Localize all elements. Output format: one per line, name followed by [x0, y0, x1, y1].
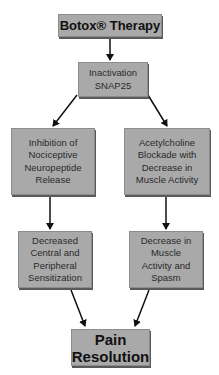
node-label: Botox® Therapy — [60, 18, 161, 33]
node-line: Inactivation — [89, 67, 137, 80]
node-acetylcholine-blockade: Acetylcholine Blockade with Decrease in … — [124, 128, 210, 195]
node-line: Nociceptive — [28, 149, 77, 162]
node-botox-therapy: Botox® Therapy — [58, 14, 162, 37]
node-line: Muscle Activity — [136, 174, 198, 187]
node-inhibition-neuropeptide: Inhibition of Nociceptive Neuropeptide R… — [11, 128, 95, 195]
node-line: Neuropeptide — [24, 162, 81, 175]
arrow-spasm-to-pain — [135, 290, 149, 326]
node-line: Decreased — [32, 235, 78, 248]
node-line: Peripheral — [33, 260, 76, 273]
node-line: Decrease in — [141, 235, 192, 248]
node-line: Release — [36, 174, 71, 187]
arrow-snap25-to-inhibition — [53, 95, 77, 126]
node-line: Activity and — [142, 260, 191, 273]
node-line: Inhibition of — [29, 137, 78, 150]
node-line: Acetylcholine — [139, 137, 195, 150]
node-line: Resolution — [72, 348, 150, 365]
arrow-snap25-to-acetylcholine — [148, 95, 167, 126]
node-line: Central and — [30, 247, 79, 260]
node-decreased-sensitization: Decreased Central and Peripheral Sensiti… — [18, 231, 92, 288]
node-line: Blockade with — [138, 149, 197, 162]
node-pain-resolution: Pain Resolution — [71, 329, 150, 366]
node-line: Pain — [95, 331, 127, 348]
node-decrease-muscle-spasm: Decrease in Muscle Activity and Spasm — [129, 231, 203, 288]
node-line: Sensitization — [28, 272, 82, 285]
node-line: Muscle — [151, 247, 181, 260]
node-line: Spasm — [151, 272, 181, 285]
node-line: SNAP25 — [95, 80, 131, 93]
arrow-sensitization-to-pain — [71, 290, 85, 326]
node-line: Decrease in — [142, 162, 193, 175]
node-inactivation-snap25: Inactivation SNAP25 — [78, 62, 148, 97]
